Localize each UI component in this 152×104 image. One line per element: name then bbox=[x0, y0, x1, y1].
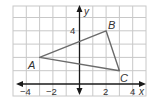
vertex-label-a: A bbox=[27, 59, 35, 71]
x-tick-label-neg2: −2 bbox=[46, 86, 57, 97]
x-tick-label-4: 4 bbox=[130, 86, 135, 97]
vertex-label-c: C bbox=[120, 72, 128, 84]
y-axis bbox=[77, 5, 83, 95]
x-tick-label-2: 2 bbox=[103, 86, 108, 97]
coordinate-plane: A B C y x −4 −2 2 4 4 bbox=[0, 0, 152, 104]
y-tick-label-4: 4 bbox=[70, 25, 75, 36]
y-axis-down-arrow-icon bbox=[77, 88, 83, 95]
vertex-label-b: B bbox=[108, 19, 115, 31]
x-axis-label: x bbox=[138, 86, 145, 97]
y-axis-label: y bbox=[83, 6, 90, 17]
x-tick-label-neg4: −4 bbox=[20, 86, 31, 97]
